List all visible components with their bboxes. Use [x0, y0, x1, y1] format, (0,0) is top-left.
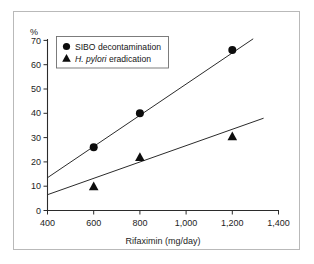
x-tick-label: 1,000: [175, 218, 198, 228]
trendline-hpylori: [48, 118, 264, 195]
x-axis-ticks: [48, 211, 279, 215]
data-point-triangle: [89, 181, 99, 190]
legend-label-hpylori-rest: eradication: [107, 54, 152, 64]
y-tick-label: 70: [31, 36, 41, 46]
series-hpylori-markers: [89, 132, 237, 191]
data-point-circle: [228, 46, 236, 54]
y-axis-tick-labels: 0 10 20 30 40 50 60 70: [31, 36, 41, 216]
legend-label-hpylori-italic: H. pylori: [75, 54, 108, 64]
data-point-circle: [90, 143, 98, 151]
data-point-circle: [136, 109, 144, 117]
legend-label-sibo: SIBO decontamination: [75, 42, 161, 52]
chart-canvas: % 0 10 20 30 40 50 60 70 400 600: [0, 0, 314, 264]
x-axis-title: Rifaximin (mg/day): [125, 236, 200, 246]
legend-circle-icon: [63, 43, 70, 50]
y-tick-label: 50: [31, 84, 41, 94]
data-point-triangle: [135, 152, 145, 161]
x-tick-label: 1,400: [267, 218, 290, 228]
y-axis-ticks: [44, 40, 48, 210]
x-tick-label: 1,200: [221, 218, 244, 228]
y-tick-label: 10: [31, 181, 41, 191]
x-tick-label: 800: [132, 218, 147, 228]
y-tick-label: 0: [36, 206, 41, 216]
x-tick-label: 400: [40, 218, 55, 228]
y-tick-label: 40: [31, 108, 41, 118]
x-tick-label: 600: [86, 218, 101, 228]
legend-label-hpylori: H. pylori eradication: [75, 54, 151, 64]
x-axis-tick-labels: 400 600 800 1,000 1,200 1,400: [40, 218, 290, 228]
y-tick-label: 60: [31, 60, 41, 70]
y-tick-label: 20: [31, 157, 41, 167]
data-point-triangle: [228, 132, 238, 141]
legend: SIBO decontamination H. pylori eradicati…: [57, 37, 169, 69]
y-tick-label: 30: [31, 133, 41, 143]
